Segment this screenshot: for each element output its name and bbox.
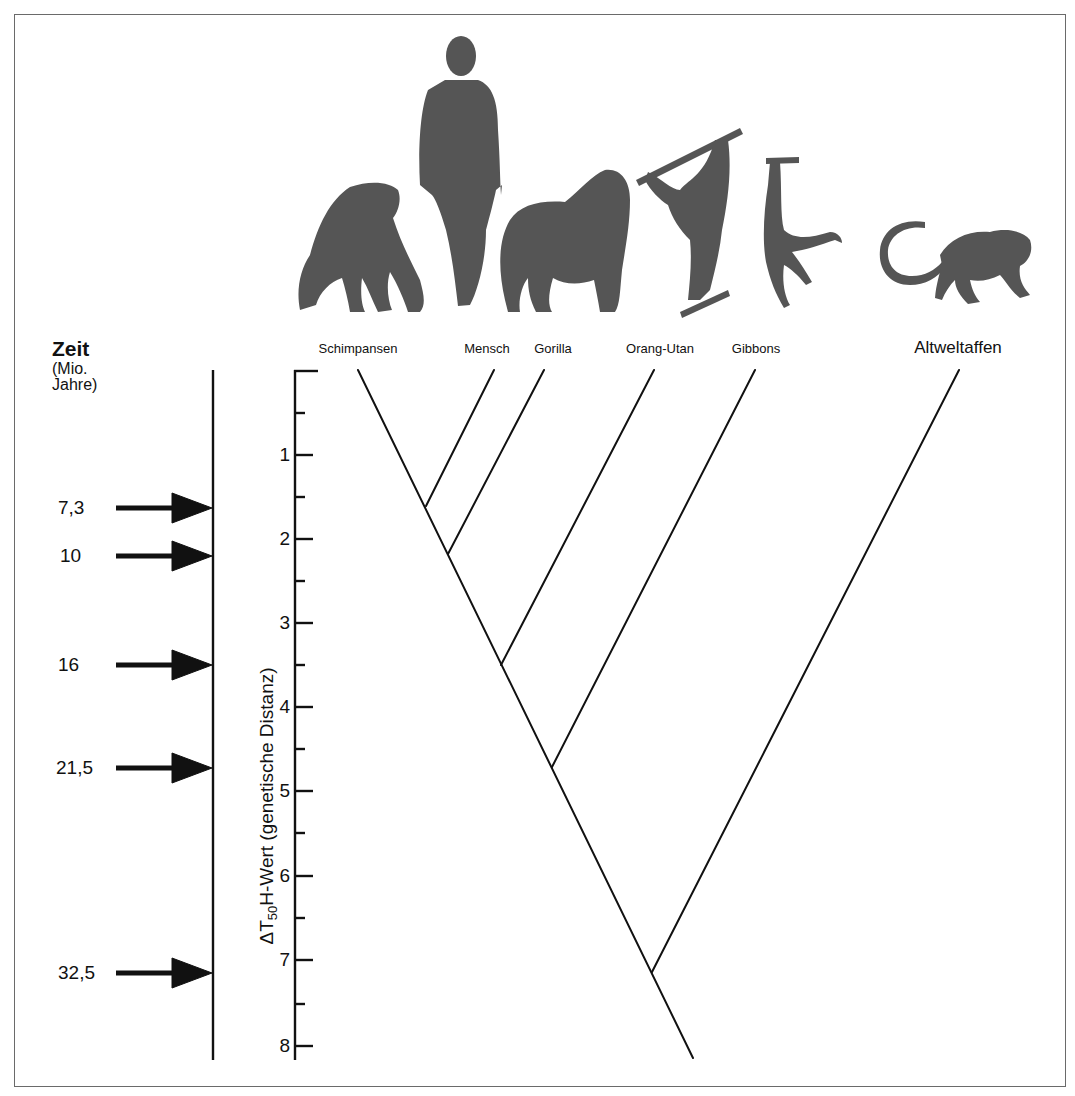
- phylogenetic-tree: [358, 370, 959, 1058]
- distance-axis-label-text: H-Wert (genetische Distanz): [256, 667, 277, 905]
- branch-orang-utan: [501, 370, 654, 665]
- branch-gorilla: [448, 370, 544, 554]
- tick-label: 6: [279, 865, 290, 887]
- distance-axis: [294, 370, 318, 1060]
- time-axis-unit-line1: (Mio.: [52, 361, 97, 377]
- arrow-icon: [116, 650, 212, 680]
- species-label-gorilla: Gorilla: [534, 341, 572, 356]
- time-arrows: [116, 493, 212, 988]
- time-axis-title: Zeit: [52, 337, 89, 361]
- old-world-monkey-silhouette-icon: [880, 221, 1031, 304]
- time-value: 7,3: [58, 497, 84, 519]
- chimpanzee-silhouette-icon: [298, 183, 423, 312]
- time-value: 16: [58, 654, 79, 676]
- distance-axis-label: ΔT50H-Wert (genetische Distanz): [256, 667, 280, 944]
- subscript-50: 50: [265, 906, 280, 920]
- delta-t-symbol: ΔT: [256, 920, 277, 944]
- tick-label: 3: [279, 612, 290, 634]
- tick-label: 7: [279, 949, 290, 971]
- species-label-schimpansen: Schimpansen: [319, 341, 398, 356]
- arrow-icon: [116, 493, 212, 523]
- species-label-gibbons: Gibbons: [732, 341, 780, 356]
- time-value: 10: [60, 545, 81, 567]
- branch-altweltaffen: [652, 370, 959, 972]
- tick-label: 8: [279, 1035, 290, 1057]
- time-value: 32,5: [58, 962, 95, 984]
- human-silhouette-icon: [419, 36, 502, 306]
- branch-schimpansen-root: [358, 370, 693, 1058]
- tick-label: 4: [279, 696, 290, 718]
- time-axis-unit-line2: Jahre): [52, 377, 97, 393]
- gibbon-silhouette-icon: [764, 157, 842, 308]
- time-value: 21,5: [56, 757, 93, 779]
- tick-label: 1: [279, 444, 290, 466]
- orangutan-silhouette-icon: [636, 128, 743, 318]
- arrow-icon: [116, 958, 212, 988]
- branch-gibbons: [552, 370, 755, 767]
- time-axis-unit: (Mio. Jahre): [52, 361, 97, 393]
- tick-label: 2: [279, 528, 290, 550]
- species-label-orang-utan: Orang-Utan: [626, 341, 694, 356]
- species-label-altweltaffen: Altweltaffen: [914, 338, 1002, 358]
- tick-label: 5: [279, 780, 290, 802]
- arrow-icon: [116, 541, 212, 571]
- species-label-mensch: Mensch: [464, 341, 510, 356]
- gorilla-silhouette-icon: [500, 170, 630, 312]
- phylogeny-diagram: [0, 0, 1075, 1096]
- arrow-icon: [116, 753, 212, 783]
